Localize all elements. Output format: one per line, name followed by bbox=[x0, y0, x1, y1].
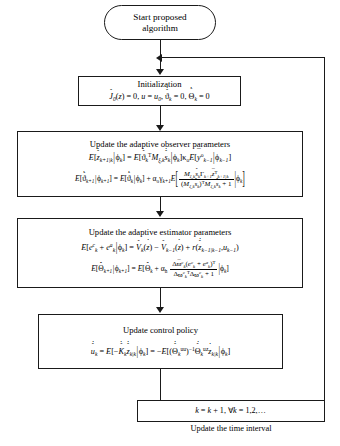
start-terminator-line1: Start proposed bbox=[133, 12, 186, 23]
control-policy-box: Update control policy ⋅ˆuk = E[−⋅ˆKk⋅ˆzk… bbox=[38, 314, 283, 369]
estimator-update-box: Update the adaptive estimator parameters… bbox=[17, 218, 303, 288]
observer-update-box: Update the adaptive observer parameters … bbox=[17, 131, 303, 197]
observer-equation-2: E[⋅ˆϑk+1|ϕk+1] = E[⋅ˆϑk|ϕk] + αoγk+1E[Mξ… bbox=[75, 170, 245, 189]
feedback-loop-arrow bbox=[156, 54, 162, 62]
time-increment-equation: k = k + 1, ∀k = 1,2,… bbox=[195, 405, 267, 416]
flowchart-canvas: Start proposed algorithm Initialization … bbox=[0, 0, 340, 446]
observer-equation-1: E[⋅ˆzk+1|k|ϕk] = E[⋅ˆϑkTMξ,k⋅ˆsk|ϕk]κoE[… bbox=[89, 152, 231, 164]
connector-control-to-increment bbox=[160, 369, 161, 401]
initialization-box: Initialization ˆJ0(z) = 0, u = u0, ⋅ˆϑk … bbox=[78, 76, 241, 106]
arrow-observer-to-estimator bbox=[156, 211, 164, 217]
time-increment-box: k = k + 1, ∀k = 1,2,… bbox=[137, 400, 325, 422]
start-terminator: Start proposed algorithm bbox=[104, 5, 216, 40]
feedback-loop-horizontal bbox=[162, 57, 325, 58]
arrow-start-to-init bbox=[156, 69, 164, 75]
estimator-equation-1: E[eck + eak|ϕk] = ˆVk(⋅z) − ˆVk−1(⋅z) + … bbox=[81, 242, 239, 254]
update-time-interval-label: Update the time interval bbox=[137, 424, 325, 433]
initialization-equation: ˆJ0(z) = 0, u = u0, ⋅ˆϑk = 0, ⋅˜Θk = 0 bbox=[109, 91, 209, 103]
arrow-estimator-to-control bbox=[156, 307, 164, 313]
observer-title: Update the adaptive observer parameters bbox=[90, 139, 230, 149]
control-policy-title: Update control policy bbox=[123, 325, 198, 335]
estimator-equation-2: E[⋅˜Θk+1|ϕk+1] = E[⋅˜Θk + αh Δ¯ϖck(eck +… bbox=[91, 260, 229, 279]
initialization-title: Initialization bbox=[138, 79, 182, 89]
estimator-title: Update the adaptive estimator parameters bbox=[89, 227, 232, 237]
start-terminator-line2: algorithm bbox=[142, 23, 178, 34]
control-policy-equation: ⋅ˆuk = E[−⋅ˆKk⋅ˆzk|k|ϕk] = −E[(⋅ˆΘkuu)−1… bbox=[91, 346, 230, 358]
feedback-loop-vertical bbox=[324, 57, 325, 401]
